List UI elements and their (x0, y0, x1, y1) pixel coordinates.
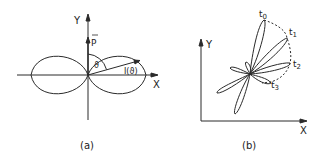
caption-b: (b) (242, 140, 256, 151)
t3-label: t3 (271, 80, 279, 92)
p-label: P (91, 38, 97, 48)
t1-label: t1 (289, 27, 297, 39)
a-y-arrow (86, 14, 90, 21)
lobe-t3 (250, 74, 271, 84)
t2-label: t2 (293, 59, 301, 71)
b-y-arrow (199, 39, 203, 46)
t0-label: t0 (259, 9, 267, 21)
angle-label: ϑ (94, 61, 99, 70)
a-x-label: X (153, 79, 160, 90)
a-x-arrow (151, 73, 158, 77)
a-y-label: Y (73, 15, 81, 26)
intensity-label: I(ϑ) (124, 67, 138, 76)
lobe-t0 (250, 20, 265, 74)
p-arrow (86, 37, 90, 43)
caption-a: (a) (80, 140, 94, 151)
t-envelope-curve (262, 20, 291, 83)
b-y-label: Y (205, 39, 213, 50)
b-x-arrow (300, 119, 307, 123)
lobe-t2 (250, 63, 290, 74)
b-lobes (217, 20, 290, 114)
b-x-label: X (300, 125, 307, 136)
diagram-canvas: Y X P ϑ I(ϑ) (a) Y X t0 t1 t2 t3 (b) (0, 0, 322, 163)
